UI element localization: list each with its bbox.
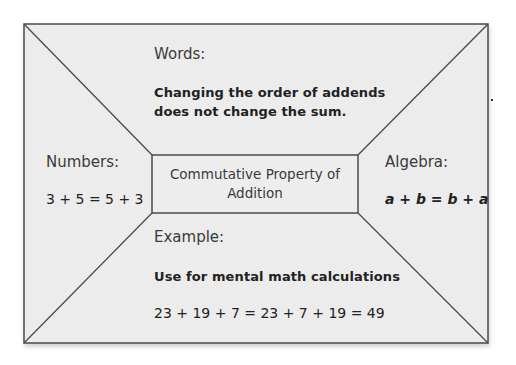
words-line-2: does not change the sum. [154,104,347,119]
center-title-line-2: Addition [152,185,358,201]
center-box [152,155,358,213]
center-title-line-1: Commutative Property of [152,166,358,182]
algebra-heading: Algebra: [385,153,448,171]
numbers-content: 3 + 5 = 5 + 3 [46,191,144,207]
words-line-1: Changing the order of addends [154,85,385,100]
numbers-heading: Numbers: [46,153,119,171]
example-line-1: Use for mental math calculations [154,269,400,284]
example-line-2: 23 + 19 + 7 = 23 + 7 + 19 = 49 [154,305,385,321]
algebra-content: a + b = b + a [385,191,488,207]
example-heading: Example: [154,228,224,246]
stray-mark [491,99,493,101]
words-heading: Words: [154,45,205,63]
